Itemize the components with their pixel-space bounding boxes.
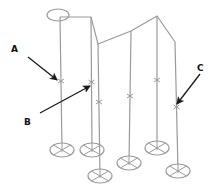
footing-icon xyxy=(50,143,74,157)
pole-6 xyxy=(166,42,190,178)
footing-icon xyxy=(145,141,169,155)
arrow-b-icon xyxy=(40,86,90,113)
footing-icon xyxy=(80,143,104,157)
arrow-a-icon xyxy=(28,57,57,80)
pole-shaft xyxy=(91,17,92,150)
top-ellipse-shape xyxy=(47,9,69,21)
poles xyxy=(50,16,190,183)
arrow-c-icon xyxy=(177,74,200,104)
footing-icon xyxy=(117,156,141,170)
footing-icon xyxy=(166,164,190,178)
footing-icon xyxy=(88,169,112,183)
roofline xyxy=(60,16,175,44)
pole-2 xyxy=(80,17,104,157)
pole-4 xyxy=(117,31,141,170)
pole-1 xyxy=(50,17,74,157)
top-ellipse xyxy=(47,9,69,21)
pole-diagram xyxy=(0,0,212,196)
pole-5 xyxy=(145,16,169,155)
pointer-arrows xyxy=(28,57,200,113)
roofline-path xyxy=(60,16,175,44)
label-a: A xyxy=(11,45,18,54)
pole-shaft xyxy=(60,17,62,150)
label-c: C xyxy=(197,64,204,73)
label-b: B xyxy=(24,118,31,127)
